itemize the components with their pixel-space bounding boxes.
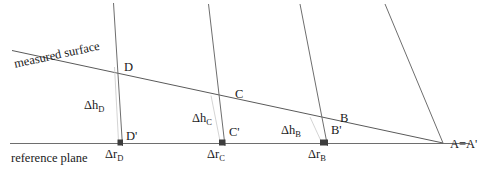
height-guide-B xyxy=(310,117,321,141)
point-label-C-prime: C' xyxy=(229,126,240,139)
delta-h-C-subscript: C xyxy=(206,117,212,127)
delta-h-C-symbol: Δh xyxy=(192,111,206,125)
apex-label-A-equals-A-prime: A=A' xyxy=(450,138,477,151)
delta-r-B-subscript: B xyxy=(320,153,326,163)
delta-h-D-subscript: D xyxy=(98,104,104,114)
delta-h-B-symbol: Δh xyxy=(281,123,295,137)
delta-r-D-subscript: D xyxy=(117,153,123,163)
delta-h-B-label: ΔhB xyxy=(281,124,301,137)
tick-mark-D-prime xyxy=(118,140,124,146)
delta-r-C-label: ΔrC xyxy=(207,148,225,161)
point-label-B-prime: B' xyxy=(331,124,342,137)
ray-line-A xyxy=(385,4,443,143)
delta-r-C-subscript: C xyxy=(219,153,225,163)
tick-mark-C-prime xyxy=(219,140,226,146)
measured-surface-line xyxy=(12,51,443,144)
height-guide-C xyxy=(211,96,220,142)
delta-r-D-symbol: Δr xyxy=(105,147,117,161)
tick-mark-B-prime xyxy=(320,140,328,146)
point-label-C: C xyxy=(235,88,243,101)
reference-plane-label: reference plane xyxy=(11,152,88,165)
delta-r-B-label: ΔrB xyxy=(308,148,326,161)
diagram-canvas: measured surface reference plane A=A' D … xyxy=(0,0,491,177)
delta-r-C-symbol: Δr xyxy=(207,147,219,161)
delta-h-D-symbol: Δh xyxy=(84,98,98,112)
delta-h-D-label: ΔhD xyxy=(84,99,104,112)
delta-h-B-subscript: B xyxy=(295,129,301,139)
delta-h-C-label: ΔhC xyxy=(192,112,212,125)
delta-r-D-label: ΔrD xyxy=(105,148,123,161)
delta-r-B-symbol: Δr xyxy=(308,147,320,161)
point-label-D-prime: D' xyxy=(126,130,137,143)
point-label-D: D xyxy=(124,61,133,74)
